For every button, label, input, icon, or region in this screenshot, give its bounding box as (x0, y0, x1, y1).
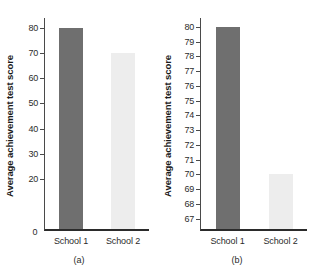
y-axis-tick-a (40, 129, 45, 130)
x-axis-tick-label-b: School 2 (263, 236, 297, 246)
y-axis-tick-label-b: 71 (184, 155, 194, 165)
chart-panel-a: Average achievement test score 0 2030405… (0, 0, 158, 276)
bar-school-2-a (111, 53, 135, 229)
y-axis-tick-label-b: 72 (184, 140, 194, 150)
x-axis-tick-label-a: School 1 (54, 236, 88, 246)
figure-container: Average achievement test score 0 2030405… (0, 0, 317, 276)
y-axis-tick-b (196, 174, 201, 175)
y-axis-tick-b (196, 189, 201, 190)
y-axis-tick-a (40, 154, 45, 155)
y-axis-tick-label-a: 40 (28, 124, 38, 134)
plot-area-b: 6768697071727374757677787980School 1Scho… (200, 18, 307, 231)
y-axis-tick-label-a: 30 (28, 149, 38, 159)
panel-caption-b: (b) (158, 255, 316, 265)
y-axis-tick-label-b: 74 (184, 110, 194, 120)
y-axis-tick-label-a: 80 (28, 23, 38, 33)
y-axis-title-b: Average achievement test score (160, 10, 176, 242)
y-axis-tick-label-a: 70 (28, 48, 38, 58)
y-axis-tick-label-b: 75 (184, 96, 194, 106)
x-axis-tick-label-b: School 1 (210, 236, 244, 246)
y-axis-tick-label-a: 50 (28, 98, 38, 108)
y-axis-tick-label-b: 76 (184, 81, 194, 91)
bars-group-b (201, 18, 307, 229)
y-axis-tick-label-b: 79 (184, 37, 194, 47)
x-axis-tick-label-a: School 2 (106, 236, 140, 246)
bar-school-2-b (269, 174, 293, 229)
y-axis-zero-label-a: 0 (33, 227, 38, 237)
y-axis-tick-b (196, 71, 201, 72)
y-axis-tick-b (196, 145, 201, 146)
chart-panel-b: Average achievement test score 676869707… (158, 0, 316, 276)
y-axis-title-a: Average achievement test score (2, 10, 18, 242)
y-axis-tick-a (40, 78, 45, 79)
y-axis-tick-b (196, 86, 201, 87)
y-axis-tick-label-b: 68 (184, 199, 194, 209)
y-axis-tick-label-b: 69 (184, 184, 194, 194)
y-axis-tick-label-b: 67 (184, 214, 194, 224)
y-axis-tick-b (196, 130, 201, 131)
bar-school-1-a (59, 28, 83, 229)
y-axis-tick-b (196, 219, 201, 220)
y-axis-tick-a (40, 53, 45, 54)
y-axis-tick-a (40, 28, 45, 29)
y-axis-tick-b (196, 101, 201, 102)
y-axis-tick-label-a: 20 (28, 174, 38, 184)
y-axis-tick-b (196, 56, 201, 57)
y-axis-tick-b (196, 42, 201, 43)
panel-caption-a: (a) (0, 255, 158, 265)
y-axis-tick-label-b: 73 (184, 125, 194, 135)
y-axis-tick-label-b: 70 (184, 169, 194, 179)
y-axis-tick-label-b: 77 (184, 66, 194, 76)
plot-area-a: 0 20304050607080School 1School 2 (44, 18, 149, 231)
y-axis-tick-b (196, 27, 201, 28)
y-axis-tick-label-a: 60 (28, 73, 38, 83)
y-axis-tick-b (196, 115, 201, 116)
bar-school-1-b (216, 27, 240, 229)
bars-group-a (45, 18, 149, 229)
y-axis-tick-label-b: 80 (184, 22, 194, 32)
y-axis-tick-b (196, 160, 201, 161)
y-axis-tick-b (196, 204, 201, 205)
y-axis-tick-label-b: 78 (184, 51, 194, 61)
y-axis-tick-a (40, 179, 45, 180)
y-axis-tick-a (40, 103, 45, 104)
